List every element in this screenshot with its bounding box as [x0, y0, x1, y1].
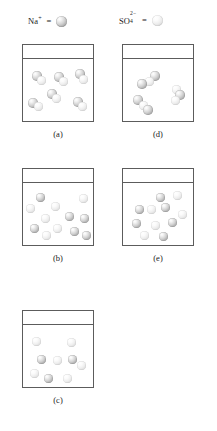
anion-sphere-icon	[173, 191, 182, 200]
cation-sphere-icon	[156, 193, 165, 202]
anion-sphere-icon	[52, 94, 61, 103]
legend-entry-na: Na+ =	[28, 16, 67, 27]
anion-sphere-icon	[37, 76, 46, 85]
anion-sphere-icon	[78, 102, 87, 111]
solution-region-e	[123, 182, 193, 245]
solution-region-d	[123, 58, 193, 121]
anion-sphere-icon	[53, 356, 62, 365]
beaker-container-a	[22, 44, 94, 122]
beaker-container-b	[22, 168, 94, 246]
anion-sphere-icon	[30, 369, 39, 378]
cation-sphere-icon	[161, 203, 170, 212]
anion-sphere-icon	[53, 224, 62, 233]
beaker-container-c	[22, 310, 94, 388]
legend-equals-so4: =	[141, 16, 148, 25]
solution-region-a	[23, 58, 93, 121]
anion-sphere-icon	[67, 338, 76, 347]
anion-sphere-icon	[34, 102, 43, 111]
beaker-container-d	[122, 44, 194, 122]
anion-sphere-icon	[63, 374, 72, 383]
anion-sphere-icon	[32, 337, 41, 346]
cation-sphere-icon	[132, 219, 141, 228]
legend-equals-na: =	[46, 17, 53, 26]
cation-sphere-icon	[137, 79, 147, 89]
beaker-container-e	[122, 168, 194, 246]
cation-sphere-icon	[65, 212, 74, 221]
solution-region-b	[23, 182, 93, 245]
cation-sphere-icon	[168, 218, 177, 227]
beaker-panel-c: (c)	[22, 310, 94, 410]
legend: Na+ = SO2−4 =	[0, 14, 217, 36]
anion-sphere-icon	[178, 210, 187, 219]
cation-sphere-icon	[70, 227, 79, 236]
anion-sphere-icon	[77, 361, 86, 370]
cation-sphere-icon	[44, 374, 53, 383]
cation-sphere-icon	[37, 355, 46, 364]
cation-sphere-icon	[80, 214, 89, 223]
anion-sphere-icon	[171, 96, 180, 105]
anion-sphere-icon	[147, 205, 156, 214]
panel-label-d: (d)	[122, 130, 194, 139]
cation-sphere-icon	[82, 231, 91, 240]
anion-sphere-icon	[152, 15, 163, 26]
anion-sphere-icon	[26, 204, 35, 213]
anion-sphere-icon	[151, 221, 160, 230]
anion-sphere-icon	[42, 231, 51, 240]
panel-label-c: (c)	[22, 396, 94, 405]
anion-sphere-icon	[41, 214, 50, 223]
anion-sphere-icon	[140, 231, 149, 240]
cation-sphere-icon	[30, 224, 39, 233]
beaker-panel-e: (e)	[122, 168, 194, 268]
panel-label-a: (a)	[22, 130, 94, 139]
beaker-panel-a: (a)	[22, 44, 94, 144]
cation-sphere-icon	[68, 355, 77, 364]
beaker-panel-d: (d)	[122, 44, 194, 144]
panel-label-b: (b)	[22, 254, 94, 263]
anion-sphere-icon	[59, 77, 68, 86]
legend-label-na: Na+	[28, 17, 42, 26]
cation-sphere-icon	[36, 193, 45, 202]
beaker-panel-b: (b)	[22, 168, 94, 268]
anion-sphere-icon	[79, 194, 88, 203]
cation-sphere-icon	[159, 232, 168, 241]
cation-sphere-icon	[143, 105, 153, 115]
solution-region-c	[23, 324, 93, 387]
legend-label-so4: SO2−4	[119, 15, 137, 26]
anion-sphere-icon	[79, 75, 88, 84]
cation-sphere-icon	[135, 205, 144, 214]
legend-entry-so4: SO2−4 =	[119, 15, 163, 26]
panel-label-e: (e)	[122, 254, 194, 263]
cation-sphere-icon	[56, 16, 67, 27]
anion-sphere-icon	[51, 202, 60, 211]
